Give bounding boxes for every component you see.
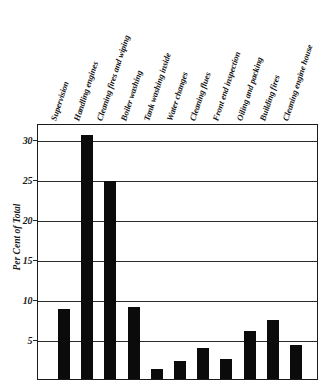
- y-axis-tick-label: 30: [4, 135, 32, 146]
- bar: [197, 348, 209, 379]
- y-axis-title: Per Cent of Total: [12, 182, 22, 292]
- category-label-group: SupervisionHandling enginesCleaning fire…: [0, 0, 332, 124]
- plot-area: [37, 124, 318, 380]
- category-label: Boiler washing: [118, 69, 144, 122]
- bar: [174, 361, 186, 379]
- category-label: Cleaning flues: [188, 71, 213, 122]
- y-axis-tick-label: 5: [4, 335, 32, 346]
- bar: [244, 331, 256, 379]
- bar-group: [38, 125, 317, 379]
- bar: [290, 345, 302, 379]
- category-label: Cleaning engine house: [280, 43, 314, 122]
- category-label: Water changes: [164, 71, 189, 122]
- category-label: Supervision: [48, 80, 70, 122]
- bar: [104, 181, 116, 379]
- bar-chart: SupervisionHandling enginesCleaning fire…: [0, 0, 332, 384]
- bar: [151, 369, 163, 379]
- bar: [81, 135, 93, 379]
- bar: [220, 359, 232, 379]
- bar: [58, 309, 70, 379]
- bar: [128, 307, 140, 379]
- y-axis-tick-label: 10: [4, 295, 32, 306]
- category-label: Building fires: [257, 74, 281, 122]
- bar: [267, 320, 279, 379]
